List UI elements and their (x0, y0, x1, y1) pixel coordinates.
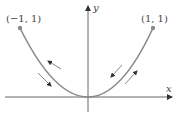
x-axis-label: x (166, 83, 172, 94)
point-label-right: (1, 1) (141, 13, 168, 24)
endpoint-left (18, 26, 22, 30)
point-label-left: (−1, 1) (6, 13, 41, 24)
arrow-right-outer-icon (111, 65, 122, 77)
arrow-left-outer-icon (48, 61, 61, 69)
endpoint-right (151, 26, 155, 30)
parabola-diagram: (−1, 1) (1, 1) y x (0, 0, 179, 119)
y-axis-label: y (92, 2, 99, 13)
parabola-curve (20, 28, 153, 97)
